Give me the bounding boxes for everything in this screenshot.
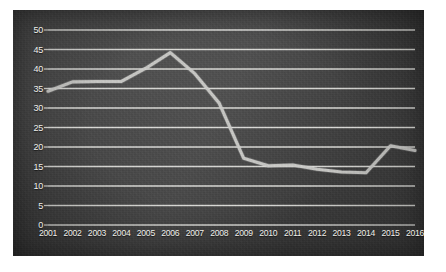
- y-axis-tick-label: 30: [21, 103, 43, 113]
- y-axis-tick-label: 50: [21, 25, 43, 35]
- data-series-line: [48, 53, 415, 173]
- y-axis-tick-label: 40: [21, 64, 43, 74]
- chart-plot-svg: [13, 10, 424, 256]
- chart-plot-panel: 05101520253035404550 2001200220032004200…: [13, 10, 424, 256]
- y-axis-tick-label: 10: [21, 181, 43, 191]
- y-axis-tick-label: 15: [21, 162, 43, 172]
- y-axis-tick-label: 35: [21, 84, 43, 94]
- y-axis-tick-label: 5: [21, 201, 43, 211]
- y-axis-tick-label: 25: [21, 123, 43, 133]
- y-axis-tick-labels: 05101520253035404550: [13, 10, 43, 256]
- y-axis-tick-label: 20: [21, 142, 43, 152]
- axis-tickmarks-group: [44, 30, 48, 225]
- x-axis-tick-label: 2016: [398, 228, 424, 238]
- line-chart-figure: 05101520253035404550 2001200220032004200…: [0, 0, 446, 272]
- x-axis-tick-labels: 2001200220032004200520062007200820092010…: [13, 228, 424, 250]
- data-series-line-glow: [48, 53, 415, 173]
- y-axis-tick-label: 45: [21, 45, 43, 55]
